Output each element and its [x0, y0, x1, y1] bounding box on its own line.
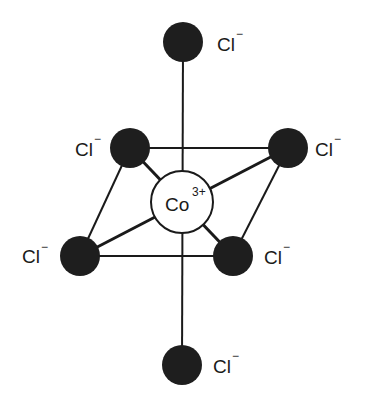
- chloride-charge: −: [283, 240, 290, 254]
- ligand-bottom: Cl −: [162, 345, 239, 385]
- chloride-label: Cl: [213, 356, 231, 377]
- chloride-atom: [268, 128, 308, 168]
- chloride-atom: [213, 236, 253, 276]
- chloride-charge: −: [41, 240, 48, 254]
- chloride-label: Cl: [22, 246, 40, 267]
- chloride-charge: −: [236, 27, 243, 41]
- chloride-charge: −: [94, 132, 101, 146]
- chloride-label: Cl: [264, 247, 282, 268]
- cobalt-label: Co: [165, 194, 189, 215]
- ligand-upper-left: Cl −: [75, 128, 150, 168]
- ligand-upper-right: Cl −: [268, 128, 341, 168]
- chloride-charge: −: [232, 349, 239, 363]
- ligand-top: Cl −: [163, 22, 243, 62]
- ligand-lower-right: Cl −: [213, 236, 290, 276]
- chloride-charge: −: [334, 132, 341, 146]
- chloride-label: Cl: [75, 139, 93, 160]
- chloride-atom: [110, 128, 150, 168]
- chloride-atom: [60, 236, 100, 276]
- octahedral-complex-diagram: Co 3+ Cl − Cl − Cl − Cl − Cl − Cl −: [0, 0, 366, 402]
- chloride-atom: [162, 345, 202, 385]
- cobalt-charge: 3+: [192, 185, 206, 199]
- chloride-atom: [163, 22, 203, 62]
- chloride-label: Cl: [217, 34, 235, 55]
- ligand-lower-left: Cl −: [22, 236, 100, 276]
- chloride-label: Cl: [315, 139, 333, 160]
